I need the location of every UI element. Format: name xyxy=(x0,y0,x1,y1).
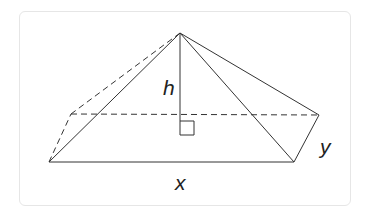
edge-apex-back-right xyxy=(180,33,319,115)
hidden-edge-back-base xyxy=(71,114,319,115)
edge-apex-front-right xyxy=(180,33,294,162)
label-x: x xyxy=(174,171,187,194)
label-y: y xyxy=(318,135,332,158)
hidden-edge-apex-back-left xyxy=(71,33,180,114)
edge-right-base xyxy=(294,115,319,162)
label-h: h xyxy=(163,76,175,99)
hidden-edge-left-base xyxy=(49,114,71,162)
pyramid-diagram: h x y xyxy=(0,0,369,215)
edge-apex-front-left xyxy=(49,33,180,162)
right-angle-marker xyxy=(180,121,194,135)
